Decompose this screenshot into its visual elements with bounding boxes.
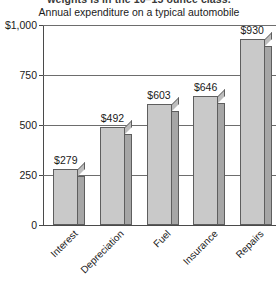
bar-side-face [78, 176, 85, 225]
bar-front-face [147, 104, 172, 225]
bar-top-face [265, 32, 272, 46]
y-axis-tick [39, 75, 43, 76]
bar-front-face [240, 39, 265, 225]
x-axis-category-label: Repairs [234, 228, 266, 260]
bar-value-label: $279 [54, 154, 77, 166]
bar-top-face [218, 89, 225, 103]
bar: $930 [240, 39, 265, 225]
bar-side-face [172, 111, 179, 225]
bar-side-face [265, 46, 272, 225]
bar-front-face [53, 169, 78, 225]
y-axis-label: 500 [19, 119, 37, 131]
chart-title: Annual expenditure on a typical automobi… [0, 6, 278, 18]
bar-value-label: $603 [147, 89, 170, 101]
y-axis-label: 750 [19, 69, 37, 81]
bar: $603 [147, 104, 172, 225]
x-axis-line [43, 225, 276, 226]
bar-top-face [125, 120, 132, 134]
bar: $492 [100, 127, 125, 225]
y-axis-tick [39, 225, 43, 226]
y-axis-label: 250 [19, 169, 37, 181]
bar: $646 [193, 96, 218, 225]
bar-value-label: $646 [194, 81, 217, 93]
chart-figure: weights is in the 10–15 ounce class. Ann… [0, 0, 278, 302]
bar-top-face [172, 97, 179, 111]
y-axis-tick [39, 125, 43, 126]
x-axis-category-label: Depreciation [79, 228, 126, 275]
bar-value-label: $492 [101, 112, 124, 124]
bar-side-face [125, 134, 132, 225]
bar-value-label: $930 [241, 24, 264, 36]
x-axis-category-label: Interest [48, 228, 79, 259]
bar-side-face [218, 103, 225, 225]
clipped-body-text: weights is in the 10–15 ounce class. [0, 0, 278, 5]
x-axis-category-label: Fuel [151, 228, 173, 250]
y-axis-tick [39, 175, 43, 176]
bar-front-face [100, 127, 125, 225]
bar-front-face [193, 96, 218, 225]
plot-area: 0250500750$1,000$279Interest$492Deprecia… [43, 25, 276, 225]
bar: $279 [53, 169, 78, 225]
y-axis-tick [39, 25, 43, 26]
x-axis-category-label: Insurance [181, 228, 220, 267]
y-axis-label: 0 [31, 219, 37, 231]
y-axis-label: $1,000 [5, 19, 37, 31]
